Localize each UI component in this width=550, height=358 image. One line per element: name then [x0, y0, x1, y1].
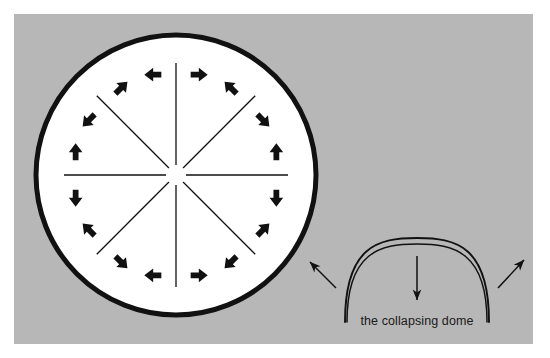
dome-section-diagram: the collapsing dome	[310, 238, 524, 328]
figure-canvas: the collapsing dome	[0, 0, 550, 358]
dome-left-outward-arrow	[310, 262, 336, 288]
figure-graphics: the collapsing dome	[0, 0, 550, 358]
circle-diagram	[36, 35, 316, 315]
dome-right-outward-arrow	[498, 260, 524, 288]
dome-caption-label: the collapsing dome	[360, 314, 473, 328]
